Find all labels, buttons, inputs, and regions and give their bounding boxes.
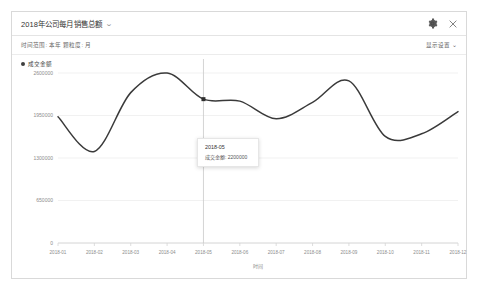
- x-axis-tick-label: 2018-04: [159, 250, 176, 255]
- x-axis-tick-label: 2018-02: [86, 250, 103, 255]
- x-axis-tick-label: 2018-01: [50, 250, 67, 255]
- panel-header: 2018年公司每月销售总额 ⌄: [12, 12, 466, 36]
- chevron-down-icon: ⌄: [105, 20, 113, 28]
- chart-tooltip: 2018-05 成交金额: 2200000: [197, 138, 259, 167]
- x-axis-tick-label: 2018-09: [340, 250, 357, 255]
- x-axis-tick-label: 2018-12: [450, 250, 467, 255]
- x-axis-tick-label: 2018-03: [122, 250, 139, 255]
- x-axis-tick-label: 2018-08: [304, 250, 321, 255]
- chart-panel: 2018年公司每月销售总额 ⌄ 时间范围: 本年 颗粒度: 月 显示设置 ⌄ 成…: [11, 11, 467, 279]
- y-axis-tick-label: 650000: [36, 197, 53, 203]
- panel-title-dropdown[interactable]: 2018年公司每月销售总额 ⌄: [12, 18, 112, 29]
- y-axis-tick-label: 2600000: [34, 70, 54, 76]
- y-axis-tick-label: 1950000: [34, 112, 54, 118]
- tooltip-title: 2018-05: [205, 144, 251, 150]
- header-actions: [427, 18, 458, 29]
- plot-area[interactable]: 06500001300000195000026000002018-012018-…: [12, 55, 468, 279]
- page-title: 2018年公司每月销售总额: [21, 18, 102, 29]
- x-axis-tick-label: 2018-06: [231, 250, 248, 255]
- line-chart-svg: 06500001300000195000026000002018-012018-…: [12, 55, 468, 279]
- filter-summary: 时间范围: 本年 颗粒度: 月: [21, 41, 91, 49]
- y-axis-tick-label: 1300000: [34, 155, 54, 161]
- tooltip-row: 成交金额: 2200000: [205, 153, 251, 160]
- close-icon[interactable]: [447, 18, 458, 29]
- tooltip-value: 2200000: [228, 154, 247, 160]
- display-settings-dropdown[interactable]: 显示设置 ⌄: [426, 41, 457, 49]
- highlighted-data-point[interactable]: [201, 97, 205, 101]
- x-axis-tick-label: 2018-10: [377, 250, 394, 255]
- x-axis-title: 时间: [253, 263, 263, 270]
- y-axis-tick-label: 0: [50, 240, 53, 246]
- x-axis-tick-label: 2018-07: [268, 250, 285, 255]
- x-axis-tick-label: 2018-05: [195, 250, 212, 255]
- tooltip-metric-label: 成交金额:: [205, 154, 226, 160]
- gear-icon[interactable]: [427, 18, 438, 29]
- filter-row: 时间范围: 本年 颗粒度: 月 显示设置 ⌄: [12, 36, 466, 55]
- x-axis-tick-label: 2018-11: [413, 250, 430, 255]
